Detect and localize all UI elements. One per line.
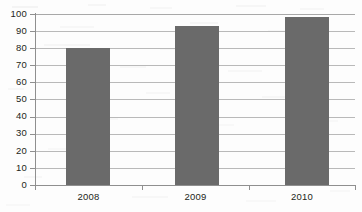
- y-axis-tick-label: 60: [1, 77, 27, 87]
- x-axis-label-2010: 2010: [249, 191, 355, 202]
- x-axis-tick-mark: [249, 186, 250, 190]
- y-axis-tick-label: 100: [1, 9, 27, 19]
- bar-2008: [66, 48, 110, 185]
- y-axis-tick-label: 70: [1, 60, 27, 70]
- y-axis-tick-label: 90: [1, 26, 27, 36]
- x-axis-line: [35, 185, 356, 186]
- x-axis-label-2009: 2009: [142, 191, 249, 202]
- plot-area: [35, 14, 355, 185]
- y-axis-tick-label: 30: [1, 128, 27, 138]
- y-axis-tick-label: 20: [1, 146, 27, 156]
- x-axis-tick-mark: [142, 186, 143, 190]
- y-axis-tick-label: 10: [1, 163, 27, 173]
- bar-chart-figure: 100 90 80 70 60 50 40 30 20 10 0: [0, 0, 362, 212]
- gridline: [35, 14, 355, 15]
- y-axis-line: [35, 13, 36, 186]
- x-axis-tick-mark: [355, 186, 356, 190]
- bar-2010: [285, 17, 329, 185]
- y-axis-tick-label: 50: [1, 94, 27, 104]
- bar-2009: [175, 26, 219, 185]
- x-axis-tick-mark: [35, 186, 36, 190]
- y-axis-labels: 100 90 80 70 60 50 40 30 20 10 0: [0, 0, 27, 212]
- x-axis-label-2008: 2008: [35, 191, 142, 202]
- y-axis-tick-label: 40: [1, 111, 27, 121]
- y-axis-tick-label: 0: [1, 180, 27, 190]
- y-axis-tick-label: 80: [1, 43, 27, 53]
